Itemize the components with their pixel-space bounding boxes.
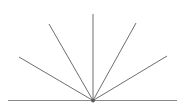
figure-canvas <box>0 0 185 108</box>
angle-fan-diagram <box>0 0 185 108</box>
vertex-point <box>91 99 95 103</box>
